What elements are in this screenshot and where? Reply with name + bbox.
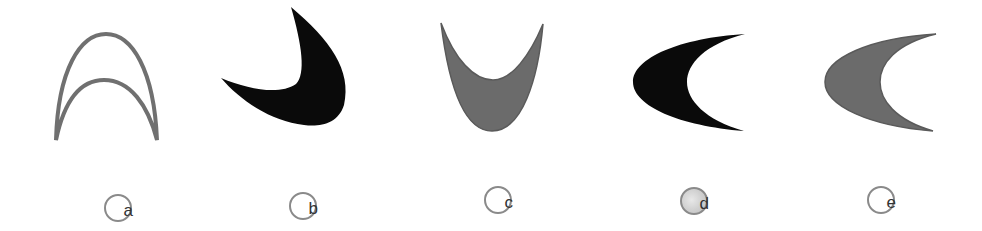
option-letter-b: b	[309, 200, 318, 217]
option-label-c[interactable]: c	[484, 186, 512, 214]
option-letter-d: d	[700, 195, 709, 212]
option-label-d[interactable]: d	[680, 187, 708, 215]
shape-a-outline-arch[interactable]	[56, 34, 157, 140]
option-letter-c: c	[505, 194, 514, 211]
option-label-a[interactable]: a	[104, 194, 132, 222]
option-label-e[interactable]: e	[867, 186, 895, 214]
option-letter-a: a	[124, 202, 133, 219]
shape-c-gray-cup[interactable]	[441, 23, 543, 131]
option-letter-e: e	[887, 194, 896, 211]
shape-d-black-crescent[interactable]	[633, 34, 745, 131]
figure-canvas: a b c d e	[0, 0, 982, 231]
shape-b-black-tilted-cup[interactable]	[221, 7, 346, 126]
option-label-b[interactable]: b	[289, 192, 317, 220]
shape-e-gray-crescent[interactable]	[825, 34, 936, 131]
